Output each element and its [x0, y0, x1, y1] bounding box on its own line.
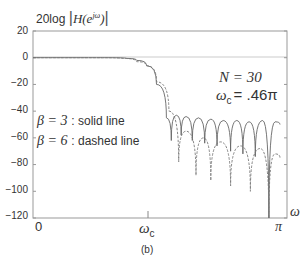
- ylabel-prefix: 20log: [36, 12, 65, 26]
- n-value: N = 30: [219, 69, 262, 85]
- x-tick-wc: ωc: [139, 220, 155, 239]
- wc-symbol: ω: [139, 220, 150, 236]
- ylabel-func: H(e: [73, 11, 93, 26]
- x-tick-pi: π: [275, 219, 282, 235]
- figure-caption: (b): [141, 244, 153, 255]
- x-tick-0: 0: [35, 219, 42, 234]
- y-tick-minus40: −40: [2, 104, 28, 115]
- annotation-wc-value: = .46π: [234, 86, 278, 103]
- legend-dashed-text: : dashed line: [71, 134, 139, 148]
- annotation-wc-subscript: c: [227, 95, 232, 106]
- y-tick-minus120: −120: [2, 210, 28, 221]
- y-tick-minus80: −80: [2, 157, 28, 168]
- annotation-wc-symbol: ω: [216, 87, 227, 103]
- legend-solid: β = 3 : solid line: [37, 112, 125, 129]
- legend-solid-text: : solid line: [71, 114, 124, 128]
- annotation-wc: ωc= .46π: [216, 86, 278, 106]
- legend-dashed-beta: β = 6: [37, 133, 67, 148]
- y-axis-label: 20log |H(ejω)|: [36, 9, 109, 27]
- y-tick-0: 0: [2, 51, 28, 62]
- x-axis-label: ω: [290, 204, 300, 220]
- annotation-n: N = 30: [219, 68, 262, 86]
- legend-dashed: β = 6 : dashed line: [37, 132, 139, 149]
- wc-subscript: c: [150, 228, 155, 239]
- y-tick-minus20: −20: [2, 77, 28, 88]
- legend-solid-beta: β = 3: [37, 113, 67, 128]
- y-tick-minus100: −100: [2, 184, 28, 195]
- abs-bar-right: |: [105, 9, 109, 26]
- y-tick-minus60: −60: [2, 131, 28, 142]
- y-tick-20: 20: [2, 25, 28, 36]
